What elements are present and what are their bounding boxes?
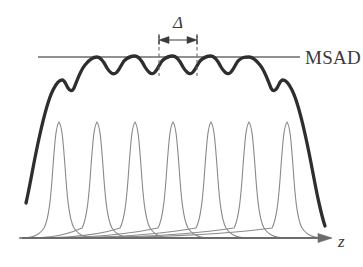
period-label: Δ xyxy=(172,13,183,32)
msad-label: MSAD xyxy=(305,47,361,68)
msad-gaussian-superposition-figure: Δ MSAD z xyxy=(0,0,363,267)
figure-container: Δ MSAD z xyxy=(0,0,363,267)
z-axis-label: z xyxy=(337,232,345,251)
